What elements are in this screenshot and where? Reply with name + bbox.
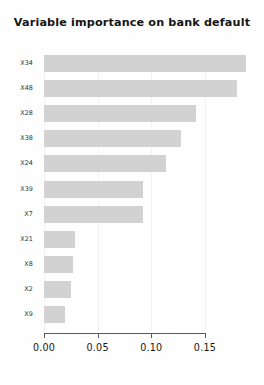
x-tick-0.00 xyxy=(44,333,45,338)
bar-row xyxy=(44,281,260,298)
bar-X39 xyxy=(44,181,143,198)
bar-row xyxy=(44,181,260,198)
y-axis-label-X2: X2 xyxy=(24,281,33,298)
y-axis-category-labels: X34X48X28X38X24X39X7X21X8X2X9 xyxy=(0,55,40,331)
bar-X8 xyxy=(44,256,73,273)
x-tick-label-0.05: 0.05 xyxy=(87,342,109,353)
y-axis-label-X48: X48 xyxy=(20,80,33,97)
y-axis-label-X21: X21 xyxy=(20,231,33,248)
bar-X48 xyxy=(44,80,237,97)
bar-X7 xyxy=(44,206,143,223)
y-axis-label-X38: X38 xyxy=(20,130,33,147)
x-tick-0.10 xyxy=(151,333,152,338)
bar-X24 xyxy=(44,155,166,172)
bar-X9 xyxy=(44,306,65,323)
y-axis-label-X9: X9 xyxy=(24,306,33,323)
x-tick-0.15 xyxy=(205,333,206,338)
x-axis: 0.000.050.100.15 xyxy=(44,333,260,373)
bar-row xyxy=(44,206,260,223)
chart-root: Variable importance on bank default X34X… xyxy=(0,0,264,385)
plot-area xyxy=(44,55,260,331)
y-axis-label-X24: X24 xyxy=(20,155,33,172)
bar-series xyxy=(44,55,260,331)
x-axis-line xyxy=(44,333,206,334)
bar-X28 xyxy=(44,105,196,122)
bar-X38 xyxy=(44,130,181,147)
chart-title: Variable importance on bank default xyxy=(0,16,264,29)
bar-row xyxy=(44,231,260,248)
x-tick-label-0.10: 0.10 xyxy=(140,342,162,353)
x-tick-label-0.00: 0.00 xyxy=(33,342,55,353)
y-axis-label-X8: X8 xyxy=(24,256,33,273)
y-axis-label-X39: X39 xyxy=(20,181,33,198)
bar-X34 xyxy=(44,55,246,72)
bar-row xyxy=(44,155,260,172)
bar-row xyxy=(44,55,260,72)
bar-X2 xyxy=(44,281,71,298)
bar-row xyxy=(44,105,260,122)
bar-X21 xyxy=(44,231,75,248)
y-axis-label-X7: X7 xyxy=(24,206,33,223)
bar-row xyxy=(44,306,260,323)
x-tick-0.05 xyxy=(98,333,99,338)
bar-row xyxy=(44,130,260,147)
bar-row xyxy=(44,256,260,273)
bar-row xyxy=(44,80,260,97)
y-axis-label-X28: X28 xyxy=(20,105,33,122)
y-axis-label-X34: X34 xyxy=(20,55,33,72)
x-tick-label-0.15: 0.15 xyxy=(194,342,216,353)
